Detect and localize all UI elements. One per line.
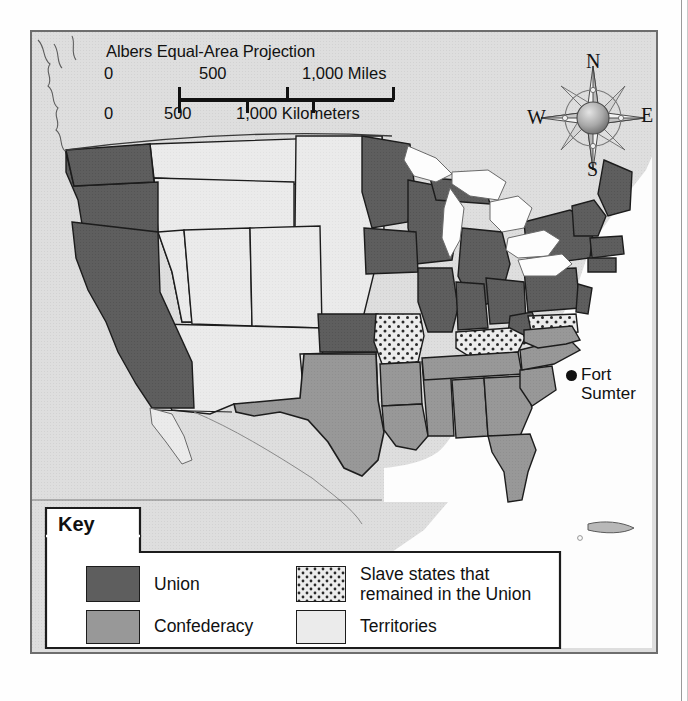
- legend-swatch-union: [86, 566, 140, 602]
- fort-sumter-label-line1: Fort: [581, 365, 636, 384]
- scale-bar: Albers Equal-Area Projection 0 500 1,000…: [104, 42, 404, 147]
- legend-label-slave-states-in-union: Slave states that remained in the Union: [360, 564, 531, 604]
- scale-km-tick-500: 500: [164, 104, 192, 123]
- scale-km-tick-0: 0: [104, 104, 113, 123]
- legend-swatch-confederacy: [86, 610, 140, 644]
- legend-label-slave-states-line1: Slave states that: [360, 564, 531, 584]
- scale-km-labels: 0 500 1,000 Kilometers: [104, 104, 400, 126]
- scale-tick-miles-0: [178, 87, 181, 100]
- fort-sumter-label: Fort Sumter: [581, 365, 636, 403]
- scale-miles-tick-500: 500: [199, 64, 227, 83]
- legend-label-confederacy: Confederacy: [154, 616, 253, 636]
- map-legend: Key Union Confederacy: [44, 506, 562, 650]
- projection-label: Albers Equal-Area Projection: [106, 42, 315, 61]
- scale-tick-miles-500: [286, 87, 289, 100]
- stipple-pattern-icon: [297, 567, 345, 601]
- legend-label-union: Union: [154, 574, 200, 594]
- legend-swatch-slave-states-in-union: [296, 566, 346, 602]
- compass-rose: N E S W: [529, 54, 657, 182]
- scale-miles-tick-1000: 1,000 Miles: [302, 64, 386, 83]
- map-page: Albers Equal-Area Projection 0 500 1,000…: [0, 0, 688, 701]
- compass-label-south: S: [587, 158, 598, 181]
- fort-sumter-label-line2: Sumter: [581, 384, 636, 403]
- scale-miles-labels: 0 500 1,000 Miles: [104, 64, 400, 86]
- scale-km-tick-1000: 1,000 Kilometers: [236, 104, 360, 123]
- fort-sumter-marker: [566, 370, 577, 381]
- legend-label-slave-states-line2: remained in the Union: [360, 584, 531, 604]
- legend-swatch-territories: [296, 610, 346, 644]
- scale-miles-tick-0: 0: [104, 64, 113, 83]
- compass-label-north: N: [586, 50, 600, 73]
- page-edge-rule: [681, 0, 682, 701]
- scale-tick-miles-1000: [392, 87, 395, 100]
- legend-label-territories: Territories: [360, 616, 437, 636]
- legend-title: Key: [58, 513, 95, 536]
- compass-label-east: E: [641, 104, 653, 127]
- map-frame: Albers Equal-Area Projection 0 500 1,000…: [30, 30, 658, 654]
- compass-label-west: W: [527, 106, 546, 129]
